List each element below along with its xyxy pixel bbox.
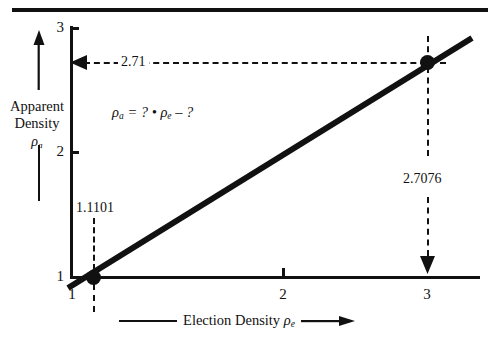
figure-container: 3 2 1 1 2 3 2.71 2.7076 1.1101 ρa = ? • … (0, 0, 501, 347)
x-axis-direction-arrow-icon (301, 316, 355, 326)
x-axis-title-lead-rule (119, 320, 177, 322)
reference-line-vertical-27076-lower (427, 197, 429, 256)
y-axis-direction-arrow-icon (33, 30, 45, 90)
regression-line (68, 38, 472, 288)
equation-slope-unknown: ? (141, 104, 148, 120)
equation-multiply-operator: • (152, 104, 157, 120)
y-axis-title-stem (38, 145, 40, 201)
x-tick-2 (282, 268, 285, 277)
reference-arrow-down (419, 254, 436, 274)
x-tick-label-3: 3 (416, 287, 438, 302)
data-point-lower (86, 270, 101, 285)
equation-intercept-unknown: ? (186, 104, 193, 120)
reference-arrow-left (70, 54, 88, 71)
top-divider-rule (12, 8, 488, 12)
equation-rhs-subscript: e (167, 110, 171, 121)
equation-lhs-subscript: a (119, 110, 124, 121)
x-axis-title-text: Election Density ρe (183, 312, 295, 329)
y-tick-label-3: 3 (44, 20, 64, 35)
x-tick-label-2: 2 (272, 287, 294, 302)
reference-line-vertical-11101-lower (93, 284, 95, 312)
y-axis-title-line1: Apparent (10, 98, 64, 114)
x-axis-title-symbol: ρe (284, 312, 295, 328)
y-axis-title-symbol: ρa (6, 134, 68, 151)
x-tick-label-1: 1 (61, 287, 83, 302)
y-tick-3 (70, 27, 79, 30)
y-tick-2 (70, 151, 79, 154)
x-axis-title: Election Density ρe (112, 310, 362, 332)
annotation-label-11101: 1.1101 (73, 201, 117, 215)
annotation-label-271: 2.71 (118, 55, 149, 69)
equation-equals: = (127, 104, 137, 120)
y-axis-title: Apparent Density ρa (6, 98, 68, 151)
equation-lhs-symbol: ρ (112, 104, 119, 120)
annotation-label-27076: 2.7076 (400, 172, 445, 186)
equation-annotation: ρa = ? • ρe – ? (112, 105, 193, 121)
data-point-upper (420, 55, 435, 70)
y-axis-title-line2: Density (14, 115, 59, 131)
y-tick-label-1: 1 (44, 269, 64, 284)
reference-line-vertical-11101-upper (93, 218, 95, 270)
equation-minus-operator: – (175, 104, 182, 120)
x-axis-line (70, 276, 480, 279)
